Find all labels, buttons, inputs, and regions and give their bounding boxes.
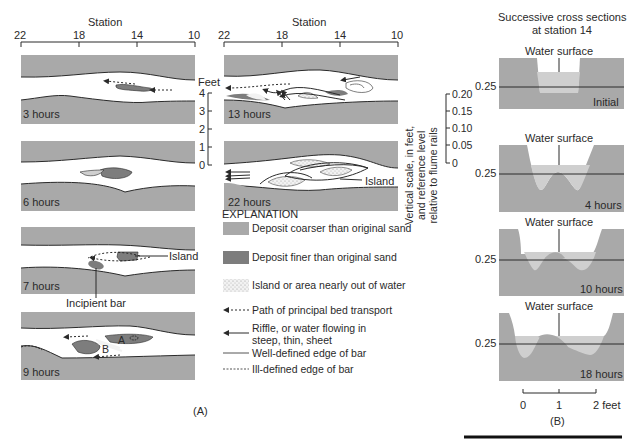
level-label-18h: 0.25 bbox=[475, 337, 496, 349]
ref-tick-020: 0.20 bbox=[452, 88, 472, 100]
level-label-initial: 0.25 bbox=[475, 80, 496, 92]
vertical-label-line-2: and reference level bbox=[415, 126, 427, 225]
water-surface-label-initial: Water surface bbox=[525, 45, 593, 57]
vertical-label-line-1: Vertical scale, in feet, bbox=[403, 126, 415, 225]
caption-b: (B) bbox=[550, 415, 565, 427]
water-surface-label-18h: Water surface bbox=[525, 300, 593, 312]
feet-tick-4: 4 bbox=[199, 87, 205, 99]
station-tick-14: 14 bbox=[131, 29, 143, 41]
stage-label-6-hours: 6 hours bbox=[23, 196, 60, 208]
panel-b-title-line-2: at station 14 bbox=[532, 24, 592, 36]
feet-tick-0: 0 bbox=[199, 159, 205, 171]
ref-tick-0: 0 bbox=[452, 157, 458, 169]
station-label-left: Station bbox=[88, 16, 122, 28]
legend-item-well-defined: Well-defined edge of bar bbox=[252, 347, 422, 359]
legend-item-coarse: Deposit coarser than original sand bbox=[252, 222, 422, 234]
stage-label-4h: 4 hours bbox=[585, 199, 622, 211]
water-surface-label-4h: Water surface bbox=[525, 132, 593, 144]
feet-tick-2: 2 bbox=[199, 123, 205, 135]
level-label-10h: 0.25 bbox=[475, 253, 496, 265]
ref-tick-010: 0.10 bbox=[452, 122, 472, 134]
feet-tick-1: 1 bbox=[199, 141, 205, 153]
station-axis-right bbox=[224, 42, 398, 47]
legend-item-bed-transport: Path of principal bed transport bbox=[252, 304, 442, 316]
legend-symbols bbox=[223, 222, 249, 369]
stage-label-10h: 10 hours bbox=[580, 283, 623, 295]
island-annotation-22h: Island bbox=[365, 175, 394, 187]
station-tick-10-right: 10 bbox=[391, 29, 403, 41]
scale-tick-2-feet: 2 feet bbox=[593, 399, 621, 411]
bar-a-annotation: A bbox=[118, 334, 125, 346]
stage-label-initial: Initial bbox=[593, 96, 619, 108]
legend-item-riffle: Riffle, or water flowing in steep, thin,… bbox=[252, 322, 392, 346]
stage-label-18h: 18 hours bbox=[580, 368, 623, 380]
horizontal-scale-b bbox=[523, 389, 596, 393]
stage-label-9-hours: 9 hours bbox=[23, 366, 60, 378]
legend-item-ill-defined: Ill-defined edge of bar bbox=[252, 363, 422, 375]
incipient-bar-annotation: Incipient bar bbox=[66, 297, 126, 309]
stage-label-3-hours: 3 hours bbox=[23, 108, 60, 120]
water-surface-label-10h: Water surface bbox=[525, 216, 593, 228]
vertical-scale-label: Vertical scale, in feet, and reference l… bbox=[403, 126, 439, 225]
station-tick-10: 10 bbox=[188, 29, 200, 41]
scale-tick-1: 1 bbox=[556, 399, 562, 411]
island-annotation-7h: Island bbox=[169, 250, 198, 262]
station-tick-22-right: 22 bbox=[218, 29, 230, 41]
level-label-4h: 0.25 bbox=[475, 167, 496, 179]
reference-level-scale bbox=[446, 94, 450, 163]
scale-tick-0: 0 bbox=[520, 399, 526, 411]
station-label-right: Station bbox=[292, 16, 326, 28]
station-tick-18: 18 bbox=[73, 29, 85, 41]
panel-b-title-line-1: Successive cross sections bbox=[498, 11, 626, 23]
station-tick-18-right: 18 bbox=[276, 29, 288, 41]
station-tick-14-right: 14 bbox=[334, 29, 346, 41]
legend-item-island: Island or area nearly out of water bbox=[252, 279, 422, 291]
feet-tick-3: 3 bbox=[199, 105, 205, 117]
ref-tick-015: 0.15 bbox=[452, 105, 472, 117]
ref-tick-005: 0.05 bbox=[452, 139, 472, 151]
stage-label-7-hours: 7 hours bbox=[23, 280, 60, 292]
feet-scale bbox=[208, 93, 212, 165]
station-tick-22: 22 bbox=[14, 29, 26, 41]
vertical-label-line-3: relative to flume rails bbox=[427, 126, 439, 225]
station-axis-left bbox=[21, 42, 195, 47]
caption-a: (A) bbox=[193, 405, 208, 417]
stage-label-13-hours: 13 hours bbox=[228, 108, 271, 120]
stage-label-22-hours: 22 hours bbox=[228, 196, 271, 208]
explanation-title: EXPLANATION bbox=[222, 208, 298, 220]
bar-b-annotation: B bbox=[102, 343, 109, 355]
legend-item-fine: Deposit finer than original sand bbox=[252, 251, 422, 263]
